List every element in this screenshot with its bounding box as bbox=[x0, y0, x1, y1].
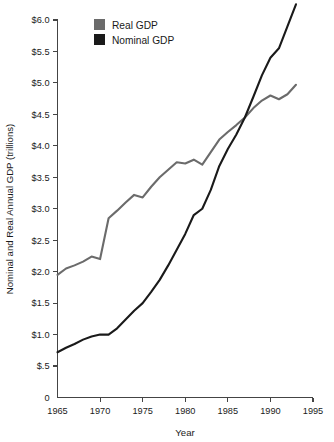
y-axis-title: Nominal and Real Annual GDP (trillions) bbox=[4, 124, 15, 294]
gdp-line-chart: 0$.5$1.0$1.5$2.0$2.5$3.0$3.5$4.0$4.5$5.0… bbox=[0, 0, 334, 442]
x-tick-label: 1975 bbox=[132, 406, 152, 416]
legend-swatch-nominal-gdp bbox=[94, 34, 105, 45]
axis-spines bbox=[58, 20, 314, 398]
x-axis-tick-labels: 1965197019751980198519901995 bbox=[47, 406, 323, 416]
y-tick-label: $2.0 bbox=[32, 267, 50, 277]
y-tick-label: $3.5 bbox=[32, 173, 50, 183]
y-tick-label: $5.0 bbox=[32, 78, 50, 88]
legend-swatch-real-gdp bbox=[94, 19, 105, 30]
x-tick-label: 1965 bbox=[47, 406, 67, 416]
y-tick-label: 0 bbox=[44, 393, 49, 403]
y-axis-ticks bbox=[53, 20, 58, 366]
x-tick-label: 1995 bbox=[303, 406, 323, 416]
x-tick-label: 1980 bbox=[175, 406, 195, 416]
series-line-real-gdp bbox=[58, 85, 296, 275]
x-tick-label: 1985 bbox=[218, 406, 238, 416]
data-series-group bbox=[58, 4, 296, 352]
y-tick-label: $3.0 bbox=[32, 204, 50, 214]
y-tick-label: $1.0 bbox=[32, 330, 50, 340]
y-tick-label: $2.5 bbox=[32, 236, 50, 246]
legend-label-nominal-gdp: Nominal GDP bbox=[112, 35, 174, 46]
chart-legend: Real GDPNominal GDP bbox=[94, 19, 174, 46]
series-line-nominal-gdp bbox=[58, 4, 296, 352]
x-tick-label: 1970 bbox=[90, 406, 110, 416]
y-tick-label: $4.5 bbox=[32, 110, 50, 120]
y-tick-label: $4.0 bbox=[32, 141, 50, 151]
legend-label-real-gdp: Real GDP bbox=[112, 20, 158, 31]
x-tick-label: 1990 bbox=[260, 406, 280, 416]
x-axis-title: Year bbox=[175, 427, 195, 438]
y-tick-label: $5.5 bbox=[32, 47, 50, 57]
chart-canvas: 0$.5$1.0$1.5$2.0$2.5$3.0$3.5$4.0$4.5$5.0… bbox=[0, 0, 334, 442]
x-axis-ticks bbox=[100, 398, 313, 403]
y-tick-label: $6.0 bbox=[32, 15, 50, 25]
y-tick-label: $.5 bbox=[37, 361, 50, 371]
y-tick-label: $1.5 bbox=[32, 298, 50, 308]
y-axis-tick-labels: 0$.5$1.0$1.5$2.0$2.5$3.0$3.5$4.0$4.5$5.0… bbox=[32, 15, 50, 403]
